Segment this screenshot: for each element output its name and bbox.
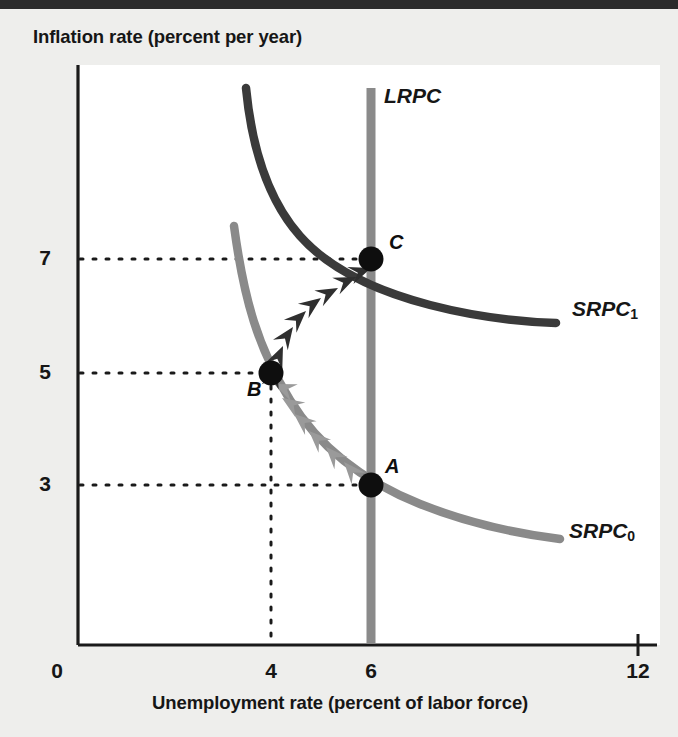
point-label-a: A: [385, 455, 399, 478]
srpc0-label: SRPC0: [569, 519, 635, 544]
y-tick-label-3: 3: [28, 472, 62, 496]
srpc1-label-text: SRPC: [572, 297, 630, 320]
x-tick-label-12: 12: [622, 659, 654, 683]
point-label-c: C: [389, 231, 403, 254]
y-tick-label-7: 7: [28, 246, 62, 270]
x-tick-label-6: 6: [355, 659, 387, 683]
data-point-c: [359, 247, 384, 272]
srpc0-label-subscript: 0: [627, 528, 635, 544]
x-tick-label-4: 4: [255, 659, 287, 683]
srpc1-curve: [246, 88, 556, 323]
srpc0-label-text: SRPC: [569, 519, 627, 542]
x-axis-title: Unemployment rate (percent of labor forc…: [152, 692, 528, 714]
srpc1-label: SRPC1: [572, 297, 638, 322]
point-label-b: B: [247, 378, 261, 401]
y-tick-label-5: 5: [28, 360, 62, 384]
data-point-b: [259, 361, 284, 386]
srpc0-curve: [234, 226, 560, 539]
chart-canvas: [0, 0, 678, 737]
data-point-a: [359, 473, 384, 498]
x-tick-label-0: 0: [41, 659, 73, 683]
phillips-curve-figure: Inflation rate (percent per year): [0, 0, 678, 737]
lrpc-label: LRPC: [384, 84, 441, 108]
srpc1-label-subscript: 1: [630, 306, 638, 322]
